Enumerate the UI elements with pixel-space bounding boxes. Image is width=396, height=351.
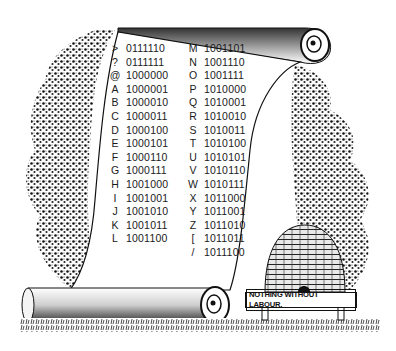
char-symbol: U — [186, 151, 200, 165]
code-row: R1010010 — [186, 110, 246, 124]
char-symbol: E — [108, 137, 122, 151]
binary-value: 1010111 — [204, 178, 245, 192]
char-symbol: ? — [108, 56, 122, 70]
code-row: Z1011010 — [186, 219, 246, 233]
char-symbol: W — [186, 178, 200, 192]
code-row: >0111110 — [108, 42, 168, 56]
code-row: P1010000 — [186, 83, 246, 97]
char-symbol: C — [108, 110, 122, 124]
code-row: A1000001 — [108, 83, 168, 97]
code-row: X1011000 — [186, 192, 246, 206]
binary-value: 1000101 — [126, 137, 168, 151]
code-row: F1000110 — [108, 151, 168, 165]
code-row: D1000100 — [108, 124, 168, 138]
char-symbol: G — [108, 164, 122, 178]
binary-value: 1010010 — [204, 110, 246, 124]
char-symbol: Z — [186, 219, 200, 233]
binary-value: 1001110 — [204, 56, 245, 70]
code-row: M1001101 — [186, 42, 246, 56]
code-row: ?0111111 — [108, 56, 168, 70]
binary-value: 1011011 — [204, 232, 245, 246]
binary-value: 1000110 — [126, 151, 168, 165]
code-row: Q1010001 — [186, 96, 246, 110]
binary-value: 1010011 — [204, 124, 246, 138]
char-symbol: @ — [108, 69, 122, 83]
scroll-bottom-roll — [22, 287, 229, 323]
binary-value: 1011000 — [204, 192, 246, 206]
binary-value: 1011001 — [204, 205, 246, 219]
binary-value: 1001101 — [204, 42, 246, 56]
code-row: S1010011 — [186, 124, 246, 138]
binary-value: 1000010 — [126, 96, 168, 110]
binary-value: 1001000 — [126, 178, 168, 192]
binary-value: 1010110 — [204, 164, 246, 178]
code-row: Y1011001 — [186, 205, 246, 219]
char-symbol: Y — [186, 205, 200, 219]
char-symbol: O — [186, 69, 200, 83]
binary-value: 1000011 — [126, 110, 168, 124]
binary-value: 0111110 — [126, 42, 165, 56]
binary-value: 1011100 — [204, 246, 245, 260]
char-symbol: R — [186, 110, 200, 124]
code-row: N1001110 — [186, 56, 246, 70]
motto-sign: NOTHING WITHOUT LABOUR. — [245, 292, 357, 308]
binary-value: 1010100 — [204, 137, 246, 151]
char-symbol: B — [108, 96, 122, 110]
code-row: B1000010 — [108, 96, 168, 110]
binary-value: 1010001 — [204, 96, 246, 110]
char-symbol: M — [186, 42, 200, 56]
char-symbol: / — [186, 246, 200, 260]
code-row: @1000000 — [108, 69, 168, 83]
code-row: E1000101 — [108, 137, 168, 151]
scroll-body — [70, 32, 300, 290]
char-symbol: X — [186, 192, 200, 206]
code-row: J1001010 — [108, 205, 168, 219]
char-symbol: J — [108, 205, 122, 219]
binary-value: 1000001 — [126, 83, 168, 97]
char-symbol: V — [186, 164, 200, 178]
code-column-left: >0111110 ?0111111 @1000000 A1000001 B100… — [108, 42, 168, 246]
binary-value: 1001010 — [126, 205, 168, 219]
code-row: U1010101 — [186, 151, 246, 165]
binary-value: 1001001 — [126, 192, 168, 206]
char-symbol: S — [186, 124, 200, 138]
char-symbol: D — [108, 124, 122, 138]
binary-value: 1010101 — [204, 151, 246, 165]
char-symbol: Q — [186, 96, 200, 110]
char-symbol: I — [108, 192, 122, 206]
binary-value: 1011010 — [204, 219, 246, 233]
code-row: [1011011 — [186, 232, 246, 246]
code-row: L1001100 — [108, 232, 168, 246]
binary-value: 1000000 — [126, 69, 168, 83]
code-row: G1000111 — [108, 164, 168, 178]
code-row: O1001111 — [186, 69, 246, 83]
char-symbol: N — [186, 56, 200, 70]
binary-value: 1001111 — [204, 69, 244, 83]
code-row: W1010111 — [186, 178, 246, 192]
char-symbol: [ — [186, 232, 200, 246]
code-row: V1010110 — [186, 164, 246, 178]
binary-value: 1000100 — [126, 124, 168, 138]
motto-text: NOTHING WITHOUT LABOUR. — [246, 289, 356, 311]
code-row: C1000011 — [108, 110, 168, 124]
code-row: K1001011 — [108, 219, 168, 233]
code-row: I1001001 — [108, 192, 168, 206]
char-symbol: H — [108, 178, 122, 192]
engraving-scene: >0111110 ?0111111 @1000000 A1000001 B100… — [0, 0, 396, 351]
code-row: /1011100 — [186, 246, 246, 260]
binary-value: 0111111 — [126, 56, 164, 70]
binary-value: 1000111 — [126, 164, 167, 178]
char-symbol: A — [108, 83, 122, 97]
binary-value: 1001100 — [126, 232, 168, 246]
binary-value: 1001011 — [126, 219, 168, 233]
char-symbol: F — [108, 151, 122, 165]
code-column-right: M1001101 N1001110 O1001111 P1010000 Q101… — [186, 42, 246, 260]
code-row: T1010100 — [186, 137, 246, 151]
char-symbol: L — [108, 232, 122, 246]
char-symbol: T — [186, 137, 200, 151]
grass — [20, 318, 380, 332]
char-symbol: K — [108, 219, 122, 233]
char-symbol: > — [108, 42, 122, 56]
char-symbol: P — [186, 83, 200, 97]
code-row: H1001000 — [108, 178, 168, 192]
